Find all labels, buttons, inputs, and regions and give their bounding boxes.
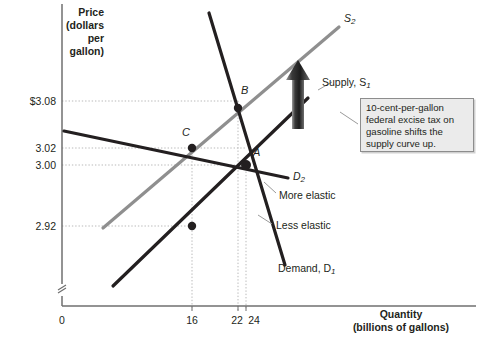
leader-more-elastic [264, 182, 276, 193]
point-label-b: B [241, 84, 248, 96]
curve-label-s2: S2 [344, 12, 355, 26]
y-axis-title-line1: Price [78, 6, 104, 18]
x-axis-title-line2: (billions of gallons) [353, 321, 449, 333]
curve-label-d2-text: D [293, 170, 301, 182]
x-tick-label-16: 16 [177, 314, 207, 326]
curve-label-s1: Supply, S1 [322, 76, 371, 90]
axis-lines [62, 4, 476, 306]
curve-label-d2: D2 [293, 170, 305, 184]
x-tick-label-24: 24 [239, 314, 269, 326]
curve-label-d1-subscript: 1 [331, 267, 335, 276]
curve-demand-d1 [209, 13, 285, 265]
x-axis-title: Quantity(billions of gallons) [326, 308, 476, 334]
curve-label-d2-subscript: 2 [301, 175, 305, 184]
point-label-c: C [182, 126, 190, 138]
data-point-a [241, 160, 251, 170]
data-point-b [234, 104, 242, 112]
curve-label-d1: Demand, D1 [278, 262, 336, 276]
curve-label-s1-text: Supply, S [322, 76, 366, 88]
data-point-s1-at-16 [188, 222, 196, 230]
y-axis-title-line2: (dollars [66, 19, 104, 31]
y-axis-title-line4: gallon) [70, 45, 104, 57]
x-axis-title-line1: Quantity [380, 308, 423, 320]
leader-callout [340, 112, 358, 124]
annotation-less-elastic: Less elastic [276, 219, 331, 231]
y-tick-label-300: 3.00 [4, 159, 56, 171]
curve-label-s1-subscript: 1 [366, 81, 370, 90]
annotation-more-elastic: More elastic [279, 189, 336, 201]
y-axis-title-line3: per [88, 32, 104, 44]
gridlines [62, 101, 246, 310]
callout-text: 10-cent-per-gallon federal excise tax on… [366, 102, 472, 150]
y-tick-label-302: 3.02 [4, 142, 56, 154]
y-tick-label-308: $3.08 [4, 95, 56, 107]
data-point-c [188, 144, 196, 152]
point-label-a: A [253, 146, 260, 158]
y-axis-break-icon [58, 285, 66, 293]
curve-label-s2-subscript: 2 [351, 17, 355, 26]
leader-lines [258, 82, 358, 224]
economics-supply-demand-figure: Price(dollarspergallon) Quantity(billion… [0, 0, 480, 349]
y-tick-label-292: 2.92 [4, 220, 56, 232]
curve-label-d1-text: Demand, D [278, 262, 331, 274]
x-tick-label-origin: 0 [47, 314, 77, 326]
curve-label-s2-text: S [344, 12, 351, 24]
y-axis-title: Price(dollarspergallon) [26, 6, 104, 58]
